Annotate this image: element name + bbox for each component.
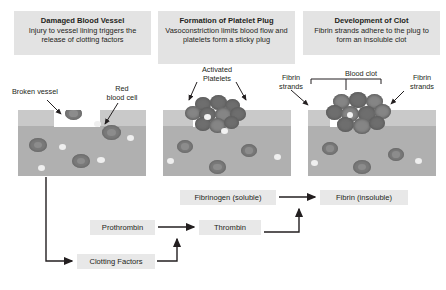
platelet xyxy=(274,154,281,160)
clot-blob xyxy=(337,117,354,132)
platelet xyxy=(127,135,134,141)
platelet xyxy=(94,121,101,127)
platelet xyxy=(97,157,105,163)
platelet xyxy=(38,165,45,171)
platelet-highlight xyxy=(221,128,228,134)
label-fibrin-strands-left: Fibrin strands xyxy=(272,74,310,92)
connector-vessel-to-clotting-factors xyxy=(46,177,72,261)
flow-box-fibrinogen: Fibrinogen (soluble) xyxy=(180,190,276,205)
red-blood-cell xyxy=(72,154,90,168)
panel-body-2: Vasoconstriction limits blood flow and p… xyxy=(162,26,291,44)
label-blood-clot: Blood clot xyxy=(331,70,391,79)
red-blood-cell xyxy=(177,140,193,153)
platelet xyxy=(167,158,174,164)
red-blood-cell xyxy=(353,160,371,174)
red-blood-cell xyxy=(102,125,121,140)
leader-fibrin-strands-left xyxy=(291,90,308,105)
clot-highlight xyxy=(347,112,353,118)
platelet-highlight xyxy=(204,114,211,120)
connector-clotting-factors-to-prothrombin xyxy=(157,239,177,261)
panel-title-3: Development of Clot xyxy=(307,16,436,25)
flow-box-prothrombin: Prothrombin xyxy=(90,220,155,235)
illustration-damaged-vessel xyxy=(18,110,146,176)
platelet xyxy=(415,158,422,164)
panel-caption-damaged-blood-vessel: Damaged Blood Vessel Injury to vessel li… xyxy=(14,11,151,55)
panel-body-1: Injury to vessel lining triggers the rel… xyxy=(18,26,147,44)
panel-caption-development-of-clot: Development of Clot Fibrin strands adher… xyxy=(303,11,440,55)
platelet-blob xyxy=(224,116,239,129)
clot-blob xyxy=(369,116,385,130)
flow-box-clotting-factors: Clotting Factors xyxy=(77,254,155,269)
panel-caption-platelet-plug: Formation of Platelet Plug Vasoconstrict… xyxy=(158,11,295,64)
red-blood-cell xyxy=(29,138,47,152)
flow-box-thrombin: Thrombin xyxy=(199,220,261,235)
flow-box-fibrin: Fibrin (insoluble) xyxy=(320,190,408,205)
red-blood-cell xyxy=(209,160,226,174)
panel-title-2: Formation of Platelet Plug xyxy=(162,16,291,25)
blood-clot-mass xyxy=(325,92,397,136)
blood-clotting-diagram: Damaged Blood Vessel Injury to vessel li… xyxy=(0,0,446,290)
bracket-blood-clot xyxy=(311,79,381,84)
activated-platelet-plug xyxy=(183,95,251,135)
label-broken-vessel: Broken vessel xyxy=(12,88,82,97)
label-red-blood-cell: Red blood cell xyxy=(96,85,148,103)
label-activated-platelets: Activated Platelets xyxy=(186,66,248,84)
red-blood-cell xyxy=(388,148,404,161)
red-blood-cell xyxy=(241,144,257,157)
panel-title-1: Damaged Blood Vessel xyxy=(18,16,147,25)
panel-body-3: Fibrin strands adhere to the plug to for… xyxy=(307,26,436,44)
platelet xyxy=(311,160,318,166)
platelet xyxy=(59,144,66,150)
red-blood-cell xyxy=(322,142,338,155)
connector-thrombin-to-fibrin-reaction xyxy=(264,209,299,232)
label-fibrin-strands-right: Fibrin strands xyxy=(402,74,442,92)
